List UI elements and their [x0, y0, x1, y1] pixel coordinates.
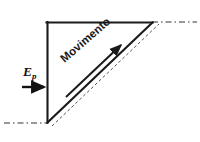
diagram-canvas — [0, 0, 200, 142]
triangle-hypotenuse — [48, 23, 153, 123]
motion-arrow — [66, 45, 121, 97]
incline-diagram: Movimento Ep — [0, 0, 200, 142]
dashed-parallel-slope — [52, 24, 159, 126]
